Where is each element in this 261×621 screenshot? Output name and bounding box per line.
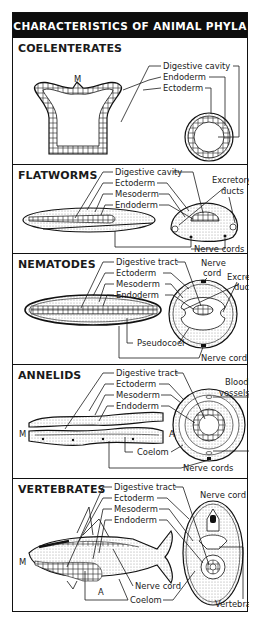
svg-text:Ectoderm: Ectoderm bbox=[115, 178, 155, 188]
svg-text:Ectoderm: Ectoderm bbox=[116, 268, 156, 278]
svg-text:A: A bbox=[98, 587, 104, 597]
svg-text:Digestive cavity: Digestive cavity bbox=[115, 167, 182, 177]
svg-text:Vertebra: Vertebra bbox=[215, 599, 249, 609]
section-vertebrates: VERTEBRATES M A bbox=[13, 478, 247, 613]
svg-text:Blood: Blood bbox=[225, 377, 249, 387]
annelid-cross-section-icon bbox=[173, 389, 245, 461]
svg-text:Endoderm: Endoderm bbox=[116, 290, 159, 300]
svg-text:Endoderm: Endoderm bbox=[163, 72, 206, 82]
nematode-diagram: Digestive tract Ectoderm Mesoderm Endode… bbox=[13, 254, 249, 365]
svg-text:Digestive tract: Digestive tract bbox=[116, 368, 178, 378]
section-annelids: ANNELIDS M A Digestive tract bbox=[13, 364, 247, 478]
svg-text:Digestive tract: Digestive tract bbox=[116, 257, 178, 267]
svg-text:Nerve: Nerve bbox=[201, 258, 226, 268]
coelenterate-body-icon bbox=[34, 82, 121, 154]
svg-text:Excretory: Excretory bbox=[212, 175, 249, 185]
svg-text:Ectoderm: Ectoderm bbox=[163, 83, 203, 93]
svg-text:Endoderm: Endoderm bbox=[115, 200, 158, 210]
vertebrate-cross-section-icon bbox=[183, 501, 243, 605]
svg-text:Nerve cords: Nerve cords bbox=[183, 463, 233, 473]
svg-text:Coelom: Coelom bbox=[130, 595, 162, 605]
svg-text:M: M bbox=[19, 429, 26, 439]
svg-text:Mesoderm: Mesoderm bbox=[116, 390, 160, 400]
svg-text:Nerve cord: Nerve cord bbox=[200, 490, 246, 500]
chart-title: CHARACTERISTICS OF ANIMAL PHYLA bbox=[13, 13, 247, 38]
svg-text:M: M bbox=[74, 74, 81, 84]
svg-text:Mesoderm: Mesoderm bbox=[116, 279, 160, 289]
flatworm-body-icon bbox=[23, 208, 155, 232]
svg-text:Ectoderm: Ectoderm bbox=[114, 493, 154, 503]
svg-text:Nerve cord: Nerve cord bbox=[201, 353, 247, 363]
svg-text:Excretory: Excretory bbox=[227, 272, 249, 282]
svg-text:Endoderm: Endoderm bbox=[114, 515, 157, 525]
svg-text:Digestive tract: Digestive tract bbox=[114, 482, 176, 492]
svg-text:Digestive cavity: Digestive cavity bbox=[163, 61, 230, 71]
section-nematodes: NEMATODES Digestive tract Ectoderm Mesod… bbox=[13, 253, 247, 364]
svg-text:cord: cord bbox=[203, 268, 221, 278]
coelenterate-diagram: M Digestive cavity Endoderm Ectoderm bbox=[13, 38, 249, 164]
svg-text:M: M bbox=[19, 557, 26, 567]
svg-text:Mesoderm: Mesoderm bbox=[114, 504, 158, 514]
svg-text:vessels: vessels bbox=[219, 388, 249, 398]
flatworm-cross-section-icon bbox=[171, 203, 237, 241]
section-coelenterates: COELENTERATES M Digestive cavity Endoder… bbox=[13, 38, 247, 164]
flatworm-diagram: Digestive cavity Ectoderm Mesoderm Endod… bbox=[13, 165, 249, 254]
annelid-body-icon bbox=[29, 412, 163, 445]
svg-text:Endoderm: Endoderm bbox=[116, 401, 159, 411]
svg-text:Ectoderm: Ectoderm bbox=[116, 379, 156, 389]
vertebrate-diagram: M A Digestive tract Ectoderm Mesoderm En… bbox=[13, 479, 249, 614]
phyla-chart-frame: CHARACTERISTICS OF ANIMAL PHYLA COELENTE… bbox=[12, 12, 248, 612]
section-flatworms: FLATWORMS Digestive cavity Ectoderm Meso… bbox=[13, 164, 247, 253]
svg-text:Nerve cord: Nerve cord bbox=[135, 581, 181, 591]
annelid-diagram: M A Digestive tract Ectoderm Mesoderm En… bbox=[13, 365, 249, 479]
svg-text:Coelom: Coelom bbox=[137, 447, 169, 457]
svg-text:Pseudocoel: Pseudocoel bbox=[137, 338, 184, 348]
svg-text:Mesoderm: Mesoderm bbox=[115, 189, 159, 199]
